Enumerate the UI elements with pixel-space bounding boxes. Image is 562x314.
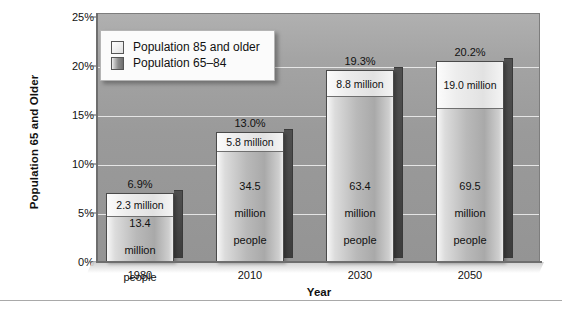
bar-segment-label: 8.8 million <box>336 78 383 90</box>
x-axis-line <box>96 261 542 263</box>
bottom-divider <box>0 300 562 301</box>
y-tick-label: 20% <box>38 60 94 72</box>
bar-body-line1: 69.5 <box>453 180 486 194</box>
y-axis-ticks: 25% 20% 15% 10% 5% 0% <box>32 0 94 314</box>
bar-segment-85-and-older: 2.3 million <box>107 194 173 217</box>
bar-segment-85-and-older: 5.8 million <box>217 133 283 152</box>
bar-total-percent: 13.0% <box>200 117 300 129</box>
legend-swatch-icon <box>111 57 124 70</box>
bar-segment-85-and-older: 8.8 million <box>327 71 393 97</box>
bar-body-line1: 34.5 <box>233 180 266 194</box>
y-tick-label: 25% <box>38 11 94 23</box>
legend-item-label: Population 85 and older <box>133 40 260 54</box>
bar-2030[interactable]: 8.8 million 63.4millionpeople <box>326 70 394 262</box>
bar-body-line1: 13.4 <box>123 217 156 231</box>
bar-body-line2: million <box>343 207 376 221</box>
bar-segment-65-84: 34.5millionpeople <box>217 152 283 261</box>
legend-item-85-and-older[interactable]: Population 85 and older <box>111 40 260 54</box>
x-axis-title: Year <box>98 286 540 298</box>
y-tick-label: 15% <box>38 109 94 121</box>
bar-body-line3: people <box>453 234 486 248</box>
y-tick-label: 10% <box>38 158 94 170</box>
bar-body-line2: million <box>453 207 486 221</box>
bar-segment-85-and-older: 19.0 million <box>437 62 503 109</box>
bar-side-face <box>394 67 403 258</box>
bar-body-line2: million <box>233 207 266 221</box>
x-tick-label-2030: 2030 <box>310 269 410 281</box>
bar-total-percent: 6.9% <box>90 178 190 190</box>
chart-legend[interactable]: Population 85 and older Population 65–84 <box>100 30 275 81</box>
bar-total-percent: 20.2% <box>420 46 520 58</box>
bar-side-face <box>284 129 293 258</box>
legend-item-65-84[interactable]: Population 65–84 <box>111 56 260 70</box>
bar-body-line3: people <box>343 234 376 248</box>
bar-1980[interactable]: 2.3 million 13.4millionpeople <box>106 193 174 262</box>
bar-2050[interactable]: 19.0 million 69.5millionpeople <box>436 61 504 262</box>
bar-segment-label: 19.0 million <box>443 79 496 91</box>
bar-body-line1: 63.4 <box>343 180 376 194</box>
bar-segment-label: 2.3 million <box>116 199 163 211</box>
x-tick-label-2050: 2050 <box>420 269 520 281</box>
bar-side-face <box>174 190 183 258</box>
bar-body-label: 34.5millionpeople <box>233 180 266 248</box>
bar-side-face <box>504 58 513 258</box>
bar-body-line3: people <box>233 234 266 248</box>
bar-segment-label: 5.8 million <box>226 136 273 148</box>
x-tick-label-1980: 1980 <box>90 269 190 281</box>
bar-body-label: 69.5millionpeople <box>453 180 486 248</box>
bar-body-line2: million <box>123 244 156 258</box>
legend-swatch-icon <box>111 41 124 54</box>
bar-total-percent: 19.3% <box>310 55 410 67</box>
legend-item-label: Population 65–84 <box>133 56 226 70</box>
y-tick-label: 5% <box>38 207 94 219</box>
y-axis-line <box>96 13 98 263</box>
bar-2010[interactable]: 5.8 million 34.5millionpeople <box>216 132 284 262</box>
bar-segment-65-84: 63.4millionpeople <box>327 97 393 261</box>
bar-body-label: 63.4millionpeople <box>343 180 376 248</box>
x-tick-label-2010: 2010 <box>200 269 300 281</box>
chart-figure: Population 65 and Older 25% 20% 15% 10% … <box>0 0 562 314</box>
bar-segment-65-84: 69.5millionpeople <box>437 109 503 261</box>
y-tick-label: 0% <box>38 256 94 268</box>
